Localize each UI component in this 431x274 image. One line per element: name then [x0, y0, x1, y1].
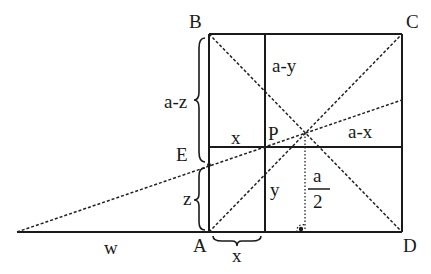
- label-p: P: [268, 123, 279, 144]
- geometry-diagram: B C D A E P a-z z x a-y a-x y a 2 w x: [0, 0, 431, 274]
- label-a-minus-y: a-y: [272, 55, 297, 76]
- label-b: B: [189, 11, 202, 32]
- fraction-denominator: 2: [313, 191, 323, 212]
- label-a: A: [193, 235, 207, 256]
- right-angle-marker: [297, 225, 305, 232]
- label-d: D: [403, 235, 417, 256]
- label-x-top: x: [231, 127, 241, 148]
- label-x-bottom: x: [232, 245, 242, 266]
- brace-a-minus-z: [194, 38, 205, 162]
- label-z: z: [183, 188, 191, 209]
- label-y: y: [270, 179, 280, 200]
- point-e-dot: [207, 163, 211, 167]
- label-a-over-2: a 2: [308, 165, 330, 212]
- label-a-minus-x: a-x: [348, 121, 373, 142]
- label-c: C: [406, 11, 419, 32]
- label-w: w: [104, 237, 118, 258]
- label-e: E: [176, 144, 188, 165]
- fraction-numerator: a: [313, 165, 322, 186]
- label-a-minus-z: a-z: [164, 91, 187, 112]
- brace-z: [194, 168, 205, 230]
